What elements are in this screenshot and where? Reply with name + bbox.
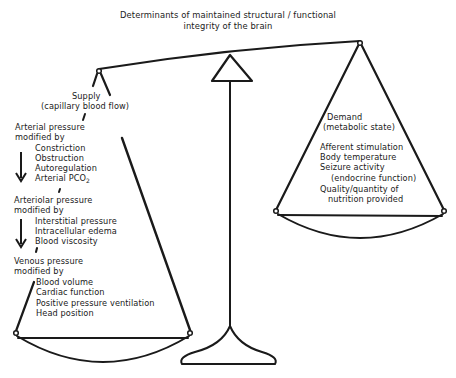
arteriolar-item: Intracellular edema: [35, 226, 117, 236]
demand-item: (endocrine function): [331, 173, 416, 183]
arteriolar-heading-2: modified by: [14, 205, 64, 215]
demand-item: Quality/quantity of: [320, 184, 399, 194]
pco-label: Arterial PCO: [35, 173, 86, 183]
left-pivot: [97, 69, 102, 74]
arterial-item: Autoregulation: [35, 163, 97, 173]
venous-item: Positive pressure ventilation: [36, 298, 155, 308]
arteriolar-item: Blood viscosity: [35, 236, 98, 246]
supply-heading: Supply: [72, 91, 101, 101]
venous-heading-2: modified by: [14, 266, 64, 276]
venous-heading-1: Venous pressure: [14, 256, 83, 266]
fulcrum-triangle: [212, 55, 252, 81]
right-pan-bowl: [278, 214, 443, 238]
supply-subheading: (capillary blood flow): [41, 101, 129, 111]
title-line-2: integrity of the brain: [0, 21, 456, 32]
pco-subscript: 2: [86, 177, 90, 184]
right-pan-rim: [278, 215, 442, 216]
arteriolar-item: Interstitial pressure: [35, 216, 117, 226]
right-pivot: [358, 41, 363, 46]
diagram-title: Determinants of maintained structural / …: [0, 10, 456, 32]
scale-base: [181, 326, 276, 364]
arterial-heading-2: modified by: [15, 132, 65, 142]
demand-heading: Demand: [327, 112, 362, 122]
demand-item: Seizure activity: [320, 162, 385, 172]
arterial-item-pco2: Arterial PCO2: [35, 173, 90, 183]
venous-item: Blood volume: [36, 277, 93, 287]
title-line-1: Determinants of maintained structural / …: [0, 10, 456, 21]
arterial-heading-1: Arterial pressure: [15, 122, 85, 132]
demand-item: Body temperature: [320, 152, 396, 162]
arterial-item: Constriction: [35, 143, 85, 153]
arteriolar-heading-1: Arteriolar pressure: [14, 195, 92, 205]
demand-item: Afferent stimulation: [320, 142, 403, 152]
venous-item: Cardiac function: [36, 287, 105, 297]
demand-subheading: (metabolic state): [323, 122, 395, 132]
left-pan-bowl: [17, 336, 189, 362]
venous-item: Head position: [36, 308, 94, 318]
demand-item: nutrition provided: [328, 194, 403, 204]
arterial-item: Obstruction: [35, 153, 84, 163]
